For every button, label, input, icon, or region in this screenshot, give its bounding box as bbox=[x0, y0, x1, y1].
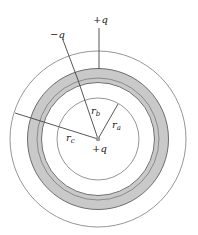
label-shell-outer-charge: +q bbox=[93, 14, 108, 25]
label-ra: ra bbox=[112, 119, 121, 132]
label-center-charge: +q bbox=[92, 143, 107, 154]
label-rc: rc bbox=[66, 132, 75, 145]
label-shell-inner-charge: −q bbox=[50, 29, 65, 40]
diagram-canvas: +q −q +q rb ra rc bbox=[0, 0, 198, 235]
label-rb: rb bbox=[91, 105, 101, 118]
point-charge-dot bbox=[96, 137, 101, 142]
